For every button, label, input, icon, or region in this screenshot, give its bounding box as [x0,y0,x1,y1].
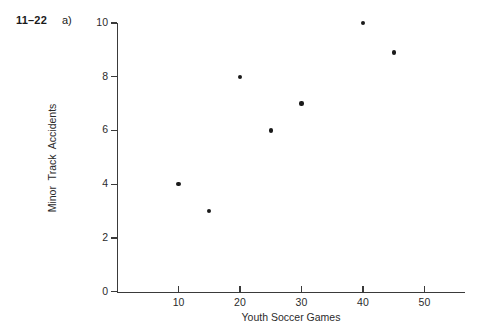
y-axis-tick [111,291,117,292]
y-axis-tick-label: 8 [86,70,108,82]
y-axis-tick [111,184,117,185]
data-point [269,128,273,132]
data-point [361,21,365,25]
y-axis-tick [111,76,117,77]
data-point [299,101,303,105]
data-point [176,182,180,186]
x-axis-tick-label: 30 [286,296,316,308]
y-axis-tick-label: 0 [86,285,108,297]
x-axis-tick-label: 40 [348,296,378,308]
x-axis-title: Youth Soccer Games [117,311,465,323]
scatter-plot-figure: 11–22 a) 02468101020304050 Minor Track A… [0,0,482,333]
x-axis-tick-label: 50 [409,296,439,308]
y-axis-title: Minor Track Accidents [46,73,58,243]
x-axis-tick-label: 20 [225,296,255,308]
x-axis-tick-label: 10 [163,296,193,308]
x-axis-tick [239,286,240,292]
data-point [207,209,211,213]
y-axis-tick [111,237,117,238]
y-axis-tick-label: 2 [86,231,108,243]
y-axis-tick-label: 6 [86,123,108,135]
y-axis-tick-label: 4 [86,177,108,189]
y-axis-tick [111,130,117,131]
x-axis-line [117,292,465,293]
x-axis-tick [424,286,425,292]
y-axis-tick [111,22,117,23]
x-axis-tick [178,286,179,292]
y-axis-line [117,23,118,293]
x-axis-tick [362,286,363,292]
data-point [392,50,396,54]
y-axis-tick-label: 10 [86,16,108,28]
data-point [238,75,242,79]
x-axis-tick [301,286,302,292]
plot-area: 02468101020304050 Minor Track Accidents … [0,0,482,333]
